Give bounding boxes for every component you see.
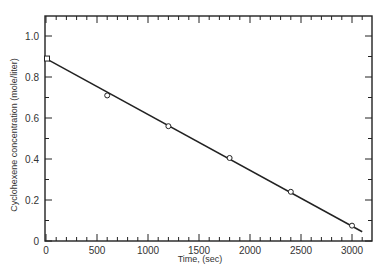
plot-frame: [45, 16, 372, 241]
data-point: [350, 223, 355, 228]
x-axis-label: Time, (sec): [178, 254, 223, 264]
x-tick-label: 2000: [239, 245, 262, 256]
data-point: [45, 56, 50, 61]
y-tick-label: 1.0: [25, 31, 39, 42]
y-tick-labels: 00.20.40.60.81.0: [25, 31, 39, 247]
x-tick-label: 3000: [341, 245, 364, 256]
x-tick-label: 500: [89, 245, 106, 256]
y-axis-label: Cyclohexene concentration (mole/liter): [9, 58, 19, 212]
x-tick-label: 1000: [137, 245, 160, 256]
data-point: [166, 124, 171, 129]
y-tick-label: 0.8: [25, 72, 39, 83]
y-tick-label: 0.6: [25, 113, 39, 124]
x-tick-label: 2500: [290, 245, 313, 256]
x-tick-label: 0: [43, 245, 49, 256]
fit-line: [46, 59, 362, 232]
y-tick-label: 0.4: [25, 154, 39, 165]
y-tick-label: 0.2: [25, 195, 39, 206]
axis-ticks: [45, 16, 372, 241]
data-point: [105, 93, 110, 98]
data-point: [227, 155, 232, 160]
y-tick-label: 0: [33, 236, 39, 247]
data-point: [288, 189, 293, 194]
chart: 050010001500200025003000 00.20.40.60.81.…: [0, 0, 387, 280]
